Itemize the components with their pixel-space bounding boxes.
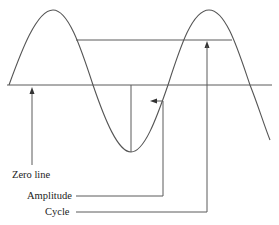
zero-line-label: Zero line [12,170,50,181]
zero-line-arrow-icon [30,87,35,94]
amplitude-arrow-icon [150,99,157,104]
amplitude-label: Amplitude [27,191,72,202]
cycle-label: Cycle [45,207,70,218]
amplitude-leader-line [76,101,163,196]
cycle-leader-line [76,46,207,212]
sine-wave [9,10,270,152]
